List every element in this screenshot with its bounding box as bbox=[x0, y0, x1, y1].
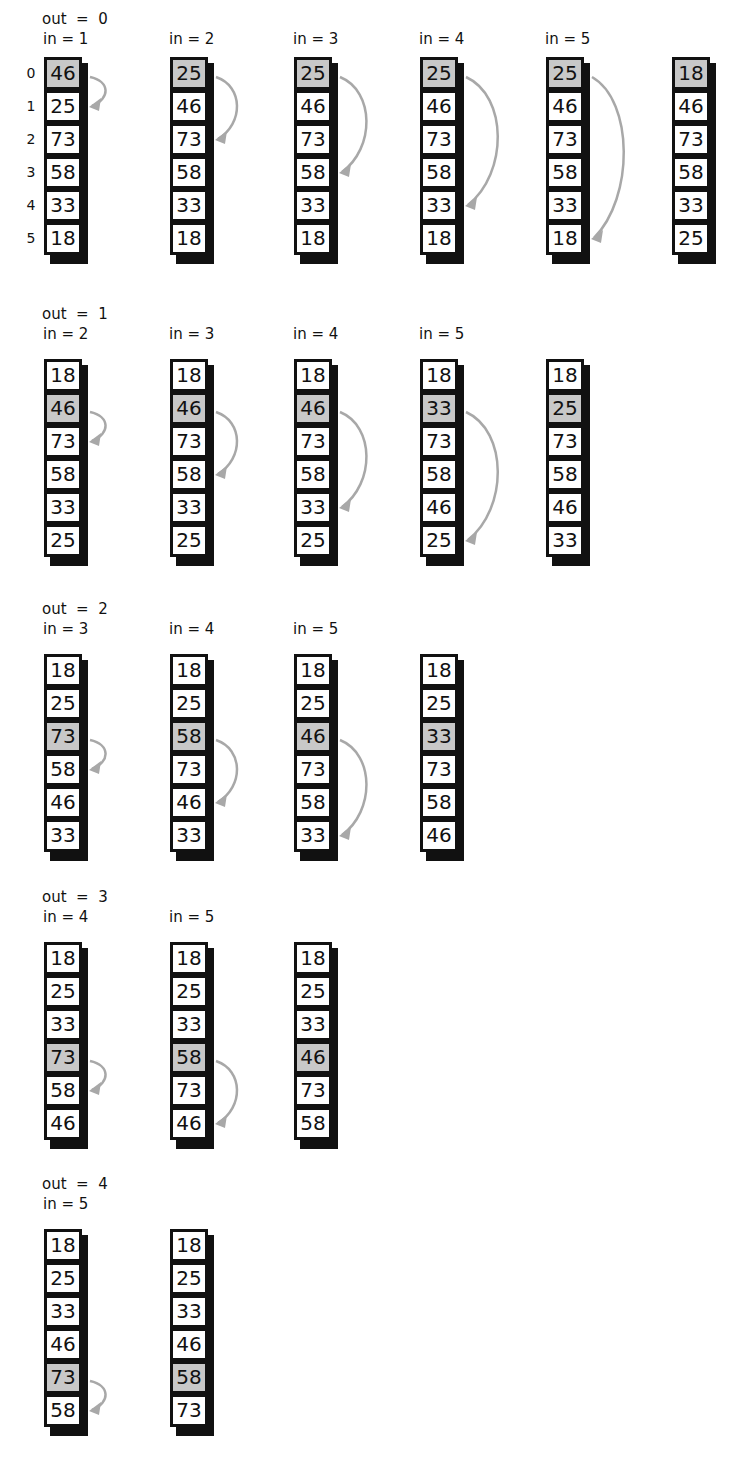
array-cell: 33 bbox=[294, 819, 332, 852]
array-cell: 33 bbox=[420, 189, 458, 222]
array-cell-highlighted: 46 bbox=[44, 57, 82, 90]
arrowhead-icon bbox=[89, 1082, 101, 1095]
array-cell: 33 bbox=[44, 189, 82, 222]
in-label: in = 4 bbox=[419, 30, 464, 48]
array-cell: 33 bbox=[294, 1008, 332, 1041]
array-cell: 58 bbox=[420, 786, 458, 819]
arrowhead-icon bbox=[89, 1402, 101, 1415]
array-cell: 58 bbox=[546, 156, 584, 189]
swap-arrow-icon bbox=[216, 1061, 237, 1123]
array-cell: 25 bbox=[44, 524, 82, 557]
array-cell-highlighted: 46 bbox=[294, 720, 332, 753]
array-cell: 58 bbox=[546, 458, 584, 491]
array-cell: 58 bbox=[44, 458, 82, 491]
array-cell: 73 bbox=[170, 123, 208, 156]
array-cell: 46 bbox=[672, 90, 710, 123]
array-cell: 33 bbox=[170, 1008, 208, 1041]
array-cell: 73 bbox=[294, 753, 332, 786]
in-label: in = 2 bbox=[43, 325, 88, 343]
array-cell: 33 bbox=[546, 189, 584, 222]
arrowhead-icon bbox=[339, 499, 351, 512]
array-cell: 25 bbox=[44, 975, 82, 1008]
array-cell: 46 bbox=[420, 819, 458, 852]
array-cell: 73 bbox=[44, 425, 82, 458]
array-cell: 18 bbox=[44, 359, 82, 392]
array-cell: 58 bbox=[44, 753, 82, 786]
array-cell: 18 bbox=[546, 222, 584, 255]
arrowhead-icon bbox=[465, 532, 477, 545]
array-cell: 73 bbox=[294, 425, 332, 458]
array-cell-highlighted: 33 bbox=[420, 392, 458, 425]
arrowhead-icon bbox=[89, 761, 101, 774]
array-cell: 33 bbox=[170, 189, 208, 222]
array-cell: 58 bbox=[294, 156, 332, 189]
array-cell: 46 bbox=[546, 491, 584, 524]
array-cell: 18 bbox=[170, 359, 208, 392]
array-cell: 46 bbox=[44, 1328, 82, 1361]
array-cell: 18 bbox=[170, 1229, 208, 1262]
arrowhead-icon bbox=[215, 1115, 227, 1128]
array-cell: 33 bbox=[672, 189, 710, 222]
in-label: in = 4 bbox=[169, 620, 214, 638]
swap-arrow-icon bbox=[592, 77, 624, 238]
array-cell: 73 bbox=[44, 123, 82, 156]
array-cell: 33 bbox=[170, 819, 208, 852]
out-label: out = 3 bbox=[42, 888, 108, 906]
array-cell: 58 bbox=[294, 458, 332, 491]
array-cell: 58 bbox=[294, 1107, 332, 1140]
array-cell: 25 bbox=[672, 222, 710, 255]
array-cell: 33 bbox=[546, 524, 584, 557]
array-cell: 18 bbox=[44, 654, 82, 687]
array-cell: 18 bbox=[546, 359, 584, 392]
array-cell: 25 bbox=[170, 975, 208, 1008]
array-cell: 25 bbox=[420, 687, 458, 720]
array-cell: 18 bbox=[294, 222, 332, 255]
array-cell: 33 bbox=[294, 189, 332, 222]
in-label: in = 5 bbox=[419, 325, 464, 343]
arrows-layer bbox=[0, 0, 753, 1471]
array-cell: 73 bbox=[672, 123, 710, 156]
array-cell-highlighted: 58 bbox=[170, 1361, 208, 1394]
swap-arrow-icon bbox=[90, 740, 106, 769]
array-cell-highlighted: 73 bbox=[44, 1361, 82, 1394]
arrowhead-icon bbox=[215, 466, 227, 479]
in-label: in = 5 bbox=[293, 620, 338, 638]
array-cell: 25 bbox=[44, 1262, 82, 1295]
in-label: in = 5 bbox=[545, 30, 590, 48]
array-cell-highlighted: 18 bbox=[672, 57, 710, 90]
swap-arrow-icon bbox=[90, 1381, 106, 1410]
array-cell: 25 bbox=[420, 524, 458, 557]
array-cell: 18 bbox=[420, 359, 458, 392]
array-cell: 33 bbox=[44, 819, 82, 852]
array-cell: 33 bbox=[44, 491, 82, 524]
array-cell: 18 bbox=[294, 942, 332, 975]
array-cell: 33 bbox=[44, 1295, 82, 1328]
array-cell: 25 bbox=[294, 687, 332, 720]
array-cell: 73 bbox=[420, 123, 458, 156]
out-label: out = 4 bbox=[42, 1175, 108, 1193]
array-cell-highlighted: 58 bbox=[170, 1041, 208, 1074]
array-cell: 18 bbox=[294, 359, 332, 392]
swap-arrow-icon bbox=[90, 77, 106, 106]
array-cell-highlighted: 46 bbox=[170, 392, 208, 425]
array-cell: 58 bbox=[420, 458, 458, 491]
index-label: 3 bbox=[24, 164, 38, 180]
array-cell: 46 bbox=[44, 1107, 82, 1140]
array-cell: 18 bbox=[420, 222, 458, 255]
array-cell: 73 bbox=[170, 425, 208, 458]
array-cell: 73 bbox=[170, 1074, 208, 1107]
array-cell: 25 bbox=[44, 90, 82, 123]
in-label: in = 1 bbox=[43, 30, 88, 48]
out-label: out = 1 bbox=[42, 305, 108, 323]
arrowhead-icon bbox=[591, 230, 603, 243]
array-cell: 58 bbox=[44, 1074, 82, 1107]
swap-arrow-icon bbox=[466, 77, 498, 205]
in-label: in = 3 bbox=[169, 325, 214, 343]
array-cell: 46 bbox=[170, 1328, 208, 1361]
array-cell: 73 bbox=[170, 1394, 208, 1427]
array-cell: 33 bbox=[170, 1295, 208, 1328]
array-cell: 18 bbox=[44, 222, 82, 255]
array-cell: 18 bbox=[420, 654, 458, 687]
index-label: 1 bbox=[24, 98, 38, 114]
array-cell-highlighted: 73 bbox=[44, 720, 82, 753]
